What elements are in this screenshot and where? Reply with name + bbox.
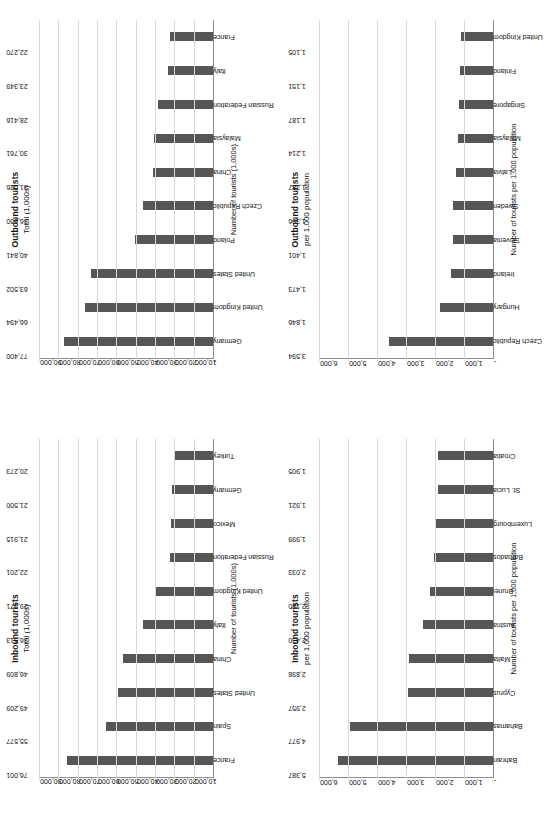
- panel-outbound-per-1000: Outbound tourists per 1,000 population -…: [280, 0, 557, 419]
- gridline: [116, 20, 117, 361]
- gridline: [406, 439, 407, 780]
- bar[interactable]: 2,957: [408, 688, 493, 697]
- bar[interactable]: 3,594: [389, 337, 493, 346]
- gridline: [348, 439, 349, 780]
- bar-item[interactable]: 46,809China: [40, 642, 213, 676]
- bar[interactable]: 22,201: [170, 553, 213, 562]
- bar-item[interactable]: 66,494United Kingdom: [40, 290, 213, 324]
- bar[interactable]: 21,915: [171, 519, 213, 528]
- bar[interactable]: 2,898: [409, 654, 493, 663]
- panel-outbound-total: Outbound tourists Total (1,000s) -10,000…: [0, 0, 280, 419]
- gridline: [116, 439, 117, 780]
- axis-tick-label: -: [491, 782, 498, 784]
- bar[interactable]: 21,500: [172, 485, 213, 494]
- bar[interactable]: 36,513: [143, 620, 213, 629]
- value-axis: -1,0002,0003,0004,0005,0006,000: [320, 780, 494, 824]
- bar[interactable]: 36,650: [143, 201, 213, 210]
- bar-item[interactable]: 21,500Germany: [40, 473, 213, 507]
- gridline: [194, 439, 195, 780]
- bar-item[interactable]: 40,841Poland: [40, 223, 213, 257]
- axis-tick-label: 90,000: [37, 782, 44, 803]
- bar[interactable]: 31,026: [153, 168, 213, 177]
- bar[interactable]: 1,396: [453, 201, 493, 210]
- gridline: [174, 20, 175, 361]
- bar[interactable]: 4,977: [350, 722, 494, 731]
- gridline: [377, 20, 378, 361]
- bar-item[interactable]: 77,400Germany: [40, 324, 213, 358]
- bar[interactable]: 1,401: [453, 235, 493, 244]
- category-label: Barbados: [493, 554, 523, 561]
- bar[interactable]: 5,387: [338, 756, 493, 765]
- chart-title: Inbound tourists: [10, 433, 21, 824]
- bar[interactable]: 1,473: [451, 269, 493, 278]
- bar-item[interactable]: 22,201Russian Federation: [40, 540, 213, 574]
- chart-title: Outbound tourists: [10, 14, 21, 405]
- bar[interactable]: 55,577: [106, 722, 213, 731]
- bar-item[interactable]: 30,761Malaysia: [40, 121, 213, 155]
- bar-item[interactable]: 31,026China: [40, 155, 213, 189]
- axis-tick-label: 70,000: [75, 782, 82, 803]
- panel-inbound-per-1000: Inbound tourists per 1,000 population -1…: [280, 419, 557, 838]
- axis-tick-label: 40,000: [133, 782, 140, 803]
- gridline: [406, 20, 407, 361]
- gridline: [464, 439, 465, 780]
- chart-title: Outbound tourists: [290, 14, 301, 405]
- bar[interactable]: 49,209: [118, 688, 213, 697]
- bar[interactable]: 76,001: [67, 756, 213, 765]
- axis-title: Number of tourists (1,000s): [229, 20, 238, 359]
- axis-tick-label: 70,000: [75, 363, 82, 384]
- bar[interactable]: 1,921: [438, 485, 493, 494]
- bar-item[interactable]: 49,209United States: [40, 676, 213, 710]
- bar[interactable]: 30,761: [154, 134, 213, 143]
- gridline: [97, 439, 98, 780]
- axis-tick-label: 3,000: [404, 782, 411, 800]
- bar[interactable]: 77,400: [64, 337, 213, 346]
- axis-tick-label: 80,000: [56, 782, 63, 803]
- axis-tick-label: 10,000: [191, 782, 198, 803]
- bar[interactable]: 2,180: [430, 587, 493, 596]
- gridline: [435, 20, 436, 361]
- axis-tick-label: -: [491, 363, 498, 365]
- axis-tick-label: 4,000: [375, 363, 382, 381]
- axis-title: Number of tourists per 1,000 population: [509, 439, 518, 778]
- chart-title: Inbound tourists: [290, 433, 301, 824]
- gridline: [155, 439, 156, 780]
- bar[interactable]: 1,846: [440, 303, 493, 312]
- bar[interactable]: 1,287: [456, 168, 493, 177]
- gridline: [58, 20, 59, 361]
- bar[interactable]: 1,105: [461, 32, 493, 41]
- axis-tick-label: 30,000: [153, 363, 160, 384]
- gridline: [319, 439, 320, 780]
- value-axis: -10,00020,00030,00040,00050,00060,00070,…: [40, 780, 214, 824]
- bar-item[interactable]: 29,971United Kingdom: [40, 574, 213, 608]
- gridline: [39, 20, 40, 361]
- bar-item[interactable]: 36,513Italy: [40, 608, 213, 642]
- bar-item[interactable]: 23,349Italy: [40, 54, 213, 88]
- axis-tick-label: 30,000: [153, 782, 160, 803]
- axis-title: Number of tourists per 1,000 population: [509, 20, 518, 359]
- gridline: [377, 439, 378, 780]
- bar-item[interactable]: 21,915Mexico: [40, 507, 213, 541]
- gridline: [78, 20, 79, 361]
- bar-item[interactable]: 22,270France: [40, 20, 213, 54]
- bar-group: 3,594Czech Republic1,846Hungary1,473Irel…: [320, 20, 494, 359]
- bar-item[interactable]: 55,577Spain: [40, 709, 213, 743]
- bar[interactable]: 1,905: [438, 451, 493, 460]
- gridline: [155, 20, 156, 361]
- bar[interactable]: 28,416: [158, 100, 213, 109]
- axis-tick-label: 2,000: [433, 363, 440, 381]
- gridline: [58, 439, 59, 780]
- bar-item[interactable]: 76,001France: [40, 743, 213, 777]
- bar-item[interactable]: 28,416Russian Federation: [40, 88, 213, 122]
- gridline: [464, 20, 465, 361]
- panel-inbound-total: Inbound tourists Total (1,000s) -10,0002…: [0, 419, 280, 838]
- plot-area: -1,0002,0003,0004,0005,0006,000 3,594Cze…: [316, 14, 554, 405]
- bar-item[interactable]: 36,650Czech Republic: [40, 189, 213, 223]
- bar[interactable]: 2,430: [423, 620, 493, 629]
- bar[interactable]: 29,971: [155, 587, 213, 596]
- bar-item[interactable]: 63,502United States: [40, 257, 213, 291]
- bar[interactable]: 22,270: [170, 32, 213, 41]
- bar-item[interactable]: 20,273Turkey: [40, 439, 213, 473]
- bar[interactable]: 63,502: [91, 269, 213, 278]
- axis-tick-label: 40,000: [133, 363, 140, 384]
